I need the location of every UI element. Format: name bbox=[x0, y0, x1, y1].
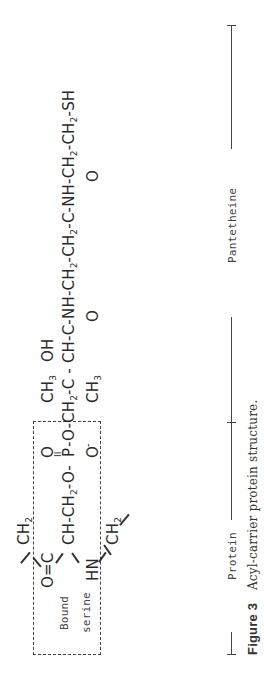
box-label-bound: Bound bbox=[57, 596, 72, 630]
figure-caption: Acyl-carrier protein structure. bbox=[246, 400, 261, 590]
phosphate-o-bottom: O bbox=[86, 446, 101, 458]
phosphate-ester-o: -O- bbox=[62, 423, 77, 447]
phosphate-charge: - bbox=[80, 443, 95, 447]
bond bbox=[20, 552, 30, 564]
bracket-tick-right bbox=[227, 25, 236, 26]
bracket-line-pantetheine-left bbox=[231, 317, 232, 422]
bracket-line-pantetheine-right bbox=[231, 25, 232, 149]
figure-label: Figure 3 bbox=[245, 603, 260, 655]
acyl-carrier-protein-figure: Bound serine CH2 O=C CH-CH2-O- HN CH2 O … bbox=[0, 0, 264, 685]
carbonyl-2-oxygen: O bbox=[86, 170, 101, 182]
hydroxyl: OH bbox=[41, 339, 56, 363]
methyl-top: CH3 bbox=[41, 375, 56, 403]
protein-label: Protein bbox=[225, 532, 240, 580]
serine-top-ch2: CH2 bbox=[17, 517, 32, 545]
phosphate-p: P bbox=[62, 448, 77, 457]
box-label-serine: serine bbox=[79, 592, 94, 633]
bracket-line-left bbox=[231, 632, 232, 655]
bracket-tick-left bbox=[227, 654, 236, 655]
bracket-line-protein-right bbox=[231, 422, 232, 520]
serine-bottom-ch2: CH2 bbox=[106, 517, 121, 545]
serine-alpha-chain: CH-CH2-O- bbox=[62, 465, 77, 545]
pantetheine-chain: CH2-C - CH-C-NH-CH2-CH2-C-NH-CH2-CH2-SH bbox=[62, 90, 77, 423]
carbonyl-1-oxygen: O bbox=[86, 310, 101, 322]
methyl-bottom: CH3 bbox=[86, 375, 101, 403]
serine-carbonyl: O=C bbox=[41, 553, 56, 588]
pantetheine-label: Pantetheine bbox=[225, 188, 240, 263]
